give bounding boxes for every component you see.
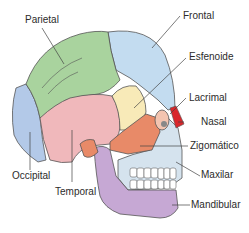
label-esfenoide: Esfenoide [189, 51, 233, 63]
label-zigomatico: Zigomático [190, 140, 239, 152]
label-frontal: Frontal [183, 10, 214, 22]
orbit-inner [161, 121, 167, 127]
label-parietal: Parietal [25, 14, 59, 26]
label-mandibular: Mandibular [191, 199, 240, 211]
label-temporal: Temporal [55, 186, 96, 198]
label-lacrimal: Lacrimal [189, 92, 227, 104]
lacrimal-bone [155, 110, 169, 130]
label-occipital: Occipital [12, 170, 50, 182]
label-nasal: Nasal [201, 116, 227, 128]
label-maxilar: Maxilar [201, 169, 233, 181]
